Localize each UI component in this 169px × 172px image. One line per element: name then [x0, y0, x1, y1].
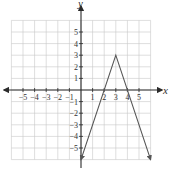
y-tick-label: 4 [74, 40, 78, 49]
x-tick-label: −5 [19, 93, 28, 102]
y-tick-label: −1 [69, 98, 78, 107]
y-axis-label: y [77, 0, 83, 9]
y-tick-label: 1 [74, 74, 78, 83]
x-tick-label: 3 [114, 93, 118, 102]
y-tick-label: 5 [74, 28, 78, 37]
x-tick-label: −3 [42, 93, 51, 102]
x-tick-label: −4 [30, 93, 39, 102]
x-tick-label: 1 [91, 93, 95, 102]
graph-plot: xy−5−4−3−2−112345−5−4−3−2−112345 [0, 0, 169, 172]
x-axis-label: x [162, 84, 168, 96]
y-tick-label: −2 [69, 109, 78, 118]
x-tick-label: 5 [137, 93, 141, 102]
y-tick-label: −3 [69, 121, 78, 130]
y-tick-label: −5 [69, 144, 78, 153]
y-tick-label: 3 [74, 51, 78, 60]
y-tick-label: 2 [74, 63, 78, 72]
x-tick-label: −2 [54, 93, 63, 102]
y-tick-label: −4 [69, 132, 78, 141]
